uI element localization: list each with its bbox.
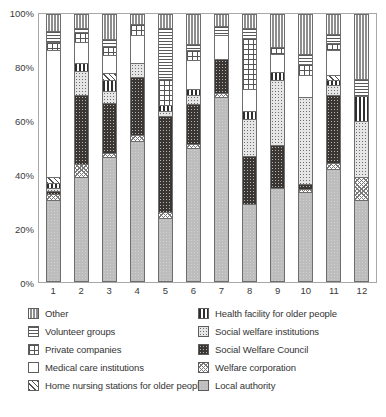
- bar-column-7[interactable]: [214, 14, 229, 282]
- bar-segment-other: [215, 15, 228, 26]
- bar-segment-volunteer: [159, 28, 172, 79]
- bar-segment-socwelinst: [131, 63, 144, 78]
- legend-item-medical[interactable]: Medical care institutions: [28, 360, 198, 374]
- bar-segment-welfarecorp: [75, 164, 88, 177]
- x-axis-tick-label: 11: [326, 285, 341, 301]
- bar-segment-socwelinst: [103, 91, 116, 103]
- legend-label: Local authority: [215, 380, 275, 391]
- bar-segment-volunteer: [327, 34, 340, 43]
- legend-label: Medical care institutions: [45, 362, 144, 373]
- bar-segment-medical: [327, 50, 340, 75]
- bar-column-10[interactable]: [298, 14, 313, 282]
- bar-column-8[interactable]: [242, 14, 257, 282]
- bar-segment-volunteer: [243, 28, 256, 37]
- bar-segment-localauth: [243, 204, 256, 281]
- bar-segment-healthfac: [103, 80, 116, 91]
- bar-segment-other: [299, 15, 312, 54]
- y-axis-tick-label: 100%: [10, 8, 34, 19]
- x-axis-tick-label: 6: [186, 285, 201, 301]
- x-axis-tick-label: 3: [102, 285, 117, 301]
- y-axis-tick-label: 80%: [15, 62, 34, 73]
- bar-segment-localauth: [299, 192, 312, 281]
- legend-item-volunteer[interactable]: Volunteer groups: [28, 324, 198, 338]
- bar-segment-socwelcouncil: [271, 145, 284, 188]
- legend-item-localauth[interactable]: Local authority: [198, 378, 386, 392]
- bar-segment-private: [159, 79, 172, 106]
- legend-column-left: OtherVolunteer groupsPrivate companiesMe…: [0, 306, 198, 398]
- bar-segment-private: [327, 43, 340, 50]
- legend-item-welfarecorp[interactable]: Welfare corporation: [198, 360, 386, 374]
- legend-item-healthfac[interactable]: Health facility for older people: [198, 306, 386, 320]
- bar-segment-other: [103, 15, 116, 39]
- bar-segment-medical: [47, 50, 60, 178]
- legend-item-socwelinst[interactable]: Social welfare institutions: [198, 324, 386, 338]
- bar-segment-other: [355, 15, 368, 79]
- x-axis-tick-label: 9: [270, 285, 285, 301]
- legend-column-right: Health facility for older peopleSocial w…: [198, 306, 386, 398]
- bar-segment-healthfac: [243, 111, 256, 119]
- legend-label: Social welfare institutions: [215, 326, 319, 337]
- legend-swatch-welfarecorp-icon: [198, 362, 209, 373]
- bar-column-6[interactable]: [186, 14, 201, 282]
- x-axis-tick-label: 1: [46, 285, 61, 301]
- bar-column-5[interactable]: [158, 14, 173, 282]
- bar-segment-localauth: [159, 218, 172, 281]
- y-axis-tick-label: 60%: [15, 116, 34, 127]
- x-axis-tick-label: 5: [158, 285, 173, 301]
- bar-column-4[interactable]: [130, 14, 145, 282]
- legend-label: Private companies: [45, 344, 121, 355]
- x-axis: 123456789101112: [39, 285, 376, 301]
- bar-column-3[interactable]: [102, 14, 117, 282]
- bar-segment-socwelcouncil: [131, 77, 144, 134]
- bar-segment-localauth: [355, 200, 368, 281]
- legend-label: Volunteer groups: [45, 326, 115, 337]
- bar-segment-medical: [75, 42, 88, 63]
- bar-segment-socwelcouncil: [215, 59, 228, 94]
- legend-swatch-private-icon: [28, 344, 39, 355]
- bar-segment-homenursing: [103, 73, 116, 80]
- legend-item-homenursing[interactable]: Home nursing stations for older people: [28, 378, 198, 392]
- stacked-bar-chart: 100%80%60%40%20%0% 123456789101112: [0, 0, 386, 302]
- bar-segment-other: [159, 15, 172, 28]
- bar-segment-localauth: [47, 200, 60, 281]
- bar-segment-medical: [131, 35, 144, 63]
- bar-segment-healthfac: [75, 63, 88, 71]
- bar-segment-socwelcouncil: [75, 95, 88, 164]
- bar-segment-localauth: [187, 148, 200, 281]
- bar-column-9[interactable]: [270, 14, 285, 282]
- bar-segment-medical: [243, 89, 256, 110]
- bar-segment-localauth: [327, 169, 340, 281]
- bar-segment-other: [187, 15, 200, 44]
- bar-column-11[interactable]: [326, 14, 341, 282]
- legend-swatch-homenursing-icon: [28, 380, 39, 391]
- bar-series-container: [39, 14, 376, 282]
- bar-segment-volunteer: [47, 31, 60, 42]
- legend-item-other[interactable]: Other: [28, 306, 198, 320]
- legend-swatch-medical-icon: [28, 362, 39, 373]
- x-axis-tick-label: 10: [298, 285, 313, 301]
- legend-swatch-volunteer-icon: [28, 326, 39, 337]
- bar-segment-socwelcouncil: [187, 104, 200, 144]
- legend-label: Welfare corporation: [215, 362, 296, 373]
- bar-segment-volunteer: [355, 79, 368, 96]
- bar-segment-welfarecorp: [327, 163, 340, 170]
- legend-label: Home nursing stations for older people: [45, 380, 204, 391]
- bar-segment-welfarecorp: [355, 177, 368, 200]
- bar-segment-localauth: [75, 177, 88, 281]
- legend-item-socwelcouncil[interactable]: Social Welfare Council: [198, 342, 386, 356]
- bar-segment-volunteer: [103, 39, 116, 46]
- bar-column-2[interactable]: [74, 14, 89, 282]
- bar-column-12[interactable]: [354, 14, 369, 282]
- legend-label: Health facility for older people: [215, 308, 337, 319]
- bar-segment-socwelcouncil: [327, 95, 340, 163]
- bar-segment-private: [243, 38, 256, 90]
- bar-segment-medical: [103, 55, 116, 74]
- legend-swatch-other-icon: [28, 308, 39, 319]
- legend-swatch-socwelinst-icon: [198, 326, 209, 337]
- bar-column-1[interactable]: [46, 14, 61, 282]
- bar-segment-private: [75, 32, 88, 41]
- legend-item-private[interactable]: Private companies: [28, 342, 198, 356]
- chart-legend: OtherVolunteer groupsPrivate companiesMe…: [0, 306, 386, 398]
- legend-label: Other: [45, 308, 68, 319]
- bar-segment-volunteer: [215, 26, 228, 35]
